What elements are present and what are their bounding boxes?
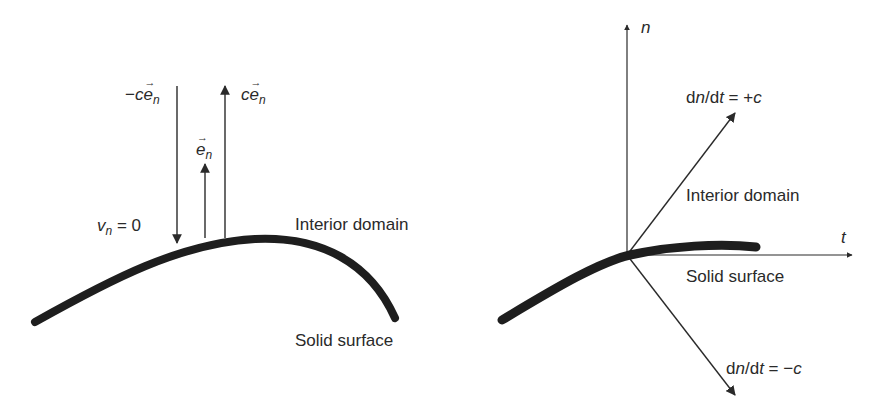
solid-surface-curve (35, 239, 395, 322)
c-symbol: c (753, 88, 762, 107)
minus-sign: − (125, 85, 135, 104)
solid-surface-label-right: Solid surface (686, 268, 784, 285)
c-en-label: c→en (241, 86, 266, 106)
interior-domain-label-right: Interior domain (686, 187, 799, 204)
vector-arrow-icon: → (251, 77, 262, 88)
plus-c-label: dn/dt = +c (686, 89, 762, 106)
t-axis-label: t (841, 229, 846, 246)
c-symbol: c (135, 85, 144, 104)
left-panel (35, 86, 395, 322)
n-symbol: n (695, 88, 704, 107)
en-label: →en (196, 141, 212, 161)
e-vector: →e (143, 86, 152, 103)
n-subscript: n (153, 93, 160, 107)
neg-c-en-label: −c→en (125, 86, 160, 106)
v-symbol: v (97, 216, 106, 235)
plus-c-characteristic (627, 113, 735, 255)
right-panel (502, 25, 852, 395)
e-vector: →e (196, 141, 205, 158)
n-axis-label: n (641, 19, 650, 36)
interior-domain-label-left: Interior domain (295, 216, 408, 233)
equals-minus: = − (764, 359, 793, 378)
slash-d: /d (745, 359, 759, 378)
diagram-canvas (0, 0, 882, 416)
vn-zero-label: vn = 0 (97, 217, 141, 237)
c-symbol: c (793, 359, 802, 378)
slash-d: /d (705, 88, 719, 107)
vector-arrow-icon: → (144, 77, 155, 88)
n-symbol: n (735, 359, 744, 378)
minus-c-label: dn/dt = −c (726, 360, 802, 377)
vector-arrow-icon: → (197, 132, 208, 143)
solid-surface-label-left: Solid surface (295, 332, 393, 349)
n-subscript: n (205, 148, 212, 162)
e-vector: →e (250, 86, 259, 103)
c-symbol: c (241, 85, 250, 104)
equals-plus: = + (724, 88, 753, 107)
equals-zero: = 0 (112, 216, 141, 235)
n-subscript: n (259, 93, 266, 107)
